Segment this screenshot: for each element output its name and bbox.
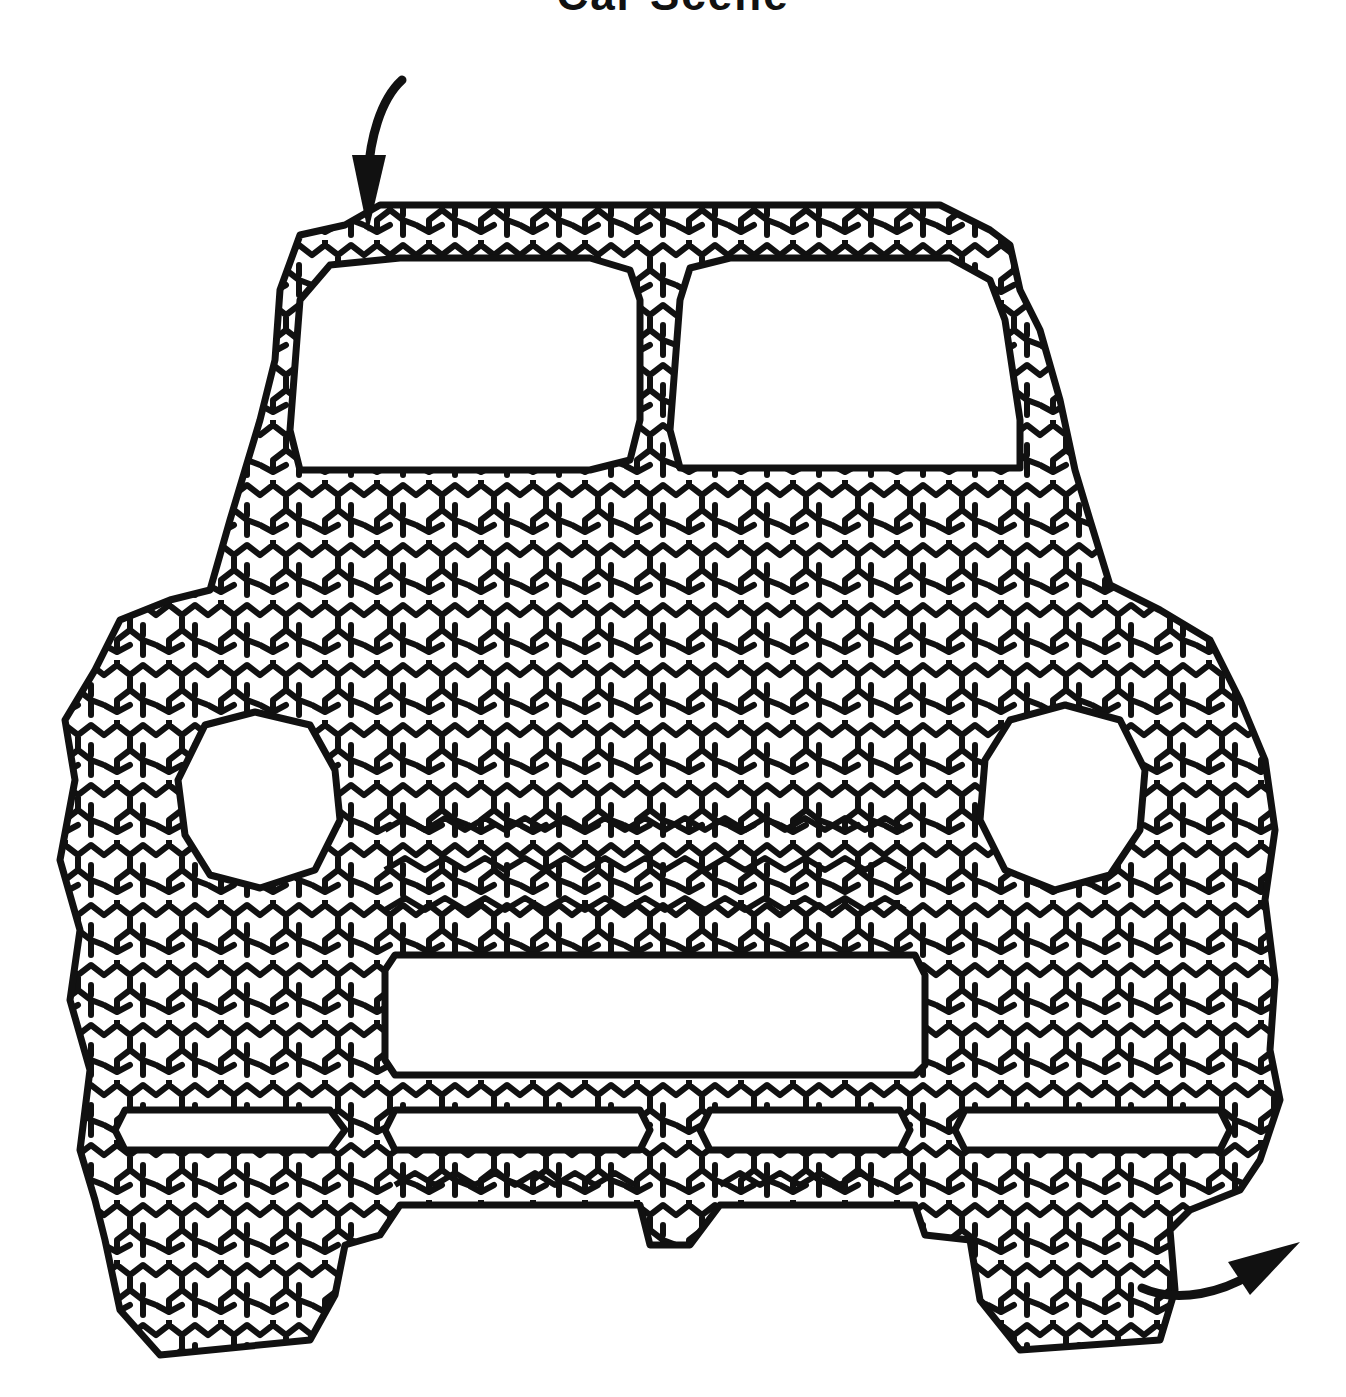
bumper-slot-1 — [115, 1110, 345, 1150]
bumper-slot-3 — [700, 1110, 910, 1150]
grille — [385, 955, 925, 1075]
car-maze[interactable] — [0, 0, 1346, 1397]
right-headlight — [980, 705, 1145, 890]
bumper-slot-2 — [385, 1110, 650, 1150]
right-window — [670, 258, 1020, 468]
left-window — [290, 258, 640, 470]
bumper-slot-4 — [955, 1110, 1230, 1150]
maze-body[interactable] — [0, 0, 1346, 1397]
left-headlight — [178, 712, 340, 888]
